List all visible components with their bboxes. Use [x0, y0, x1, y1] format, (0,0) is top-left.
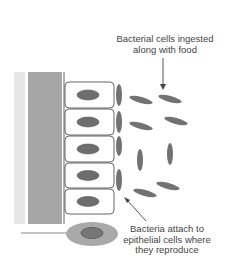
free-bacterium [167, 143, 173, 165]
cell-nucleus [77, 197, 99, 207]
attached-bacterium [116, 169, 122, 191]
free-cell-nucleus [81, 228, 103, 239]
cell-nucleus [77, 171, 99, 181]
label-attach: Bacteria attach to epithelial cells wher… [112, 224, 222, 256]
lumen-strip-light [14, 72, 25, 224]
cell-nucleus [77, 144, 99, 154]
cell-nucleus [77, 90, 99, 100]
label-ingested-line-2: along with food [108, 45, 222, 56]
attached-bacterium [116, 136, 122, 156]
attached-bacterium [116, 111, 122, 133]
attached-bacterium [116, 84, 122, 106]
free-bacterium [137, 149, 143, 171]
epithelial-cell-layer [65, 82, 114, 214]
label-attach-line-3: they reproduce [112, 245, 222, 256]
label-attach-line-1: Bacteria attach to [112, 224, 222, 235]
label-ingested: Bacterial cells ingested along with food [108, 34, 222, 55]
cell-nucleus [77, 117, 99, 127]
label-ingested-line-1: Bacterial cells ingested [108, 34, 222, 45]
tissue-strip-dark [28, 72, 62, 224]
